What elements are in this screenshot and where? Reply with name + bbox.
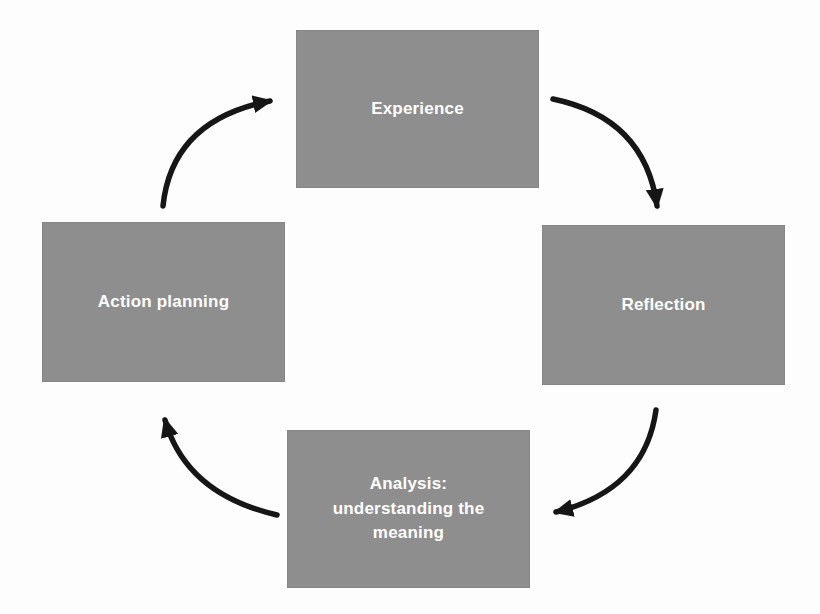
node-reflection-label: Reflection bbox=[621, 293, 705, 318]
arrow-action-planning-to-experience bbox=[163, 101, 270, 206]
node-experience: Experience bbox=[296, 30, 539, 188]
node-experience-label: Experience bbox=[371, 97, 464, 122]
node-action-planning-label: Action planning bbox=[98, 290, 229, 315]
cycle-diagram: Experience Reflection Analysis: understa… bbox=[0, 0, 820, 614]
arrow-reflection-to-analysis bbox=[556, 410, 656, 512]
node-action-planning: Action planning bbox=[42, 222, 285, 382]
arrow-experience-to-reflection bbox=[553, 99, 657, 206]
node-analysis: Analysis: understanding the meaning bbox=[287, 430, 530, 588]
arrow-analysis-to-action-planning bbox=[165, 420, 277, 515]
node-analysis-label: Analysis: understanding the meaning bbox=[333, 472, 485, 546]
node-reflection: Reflection bbox=[542, 225, 785, 385]
